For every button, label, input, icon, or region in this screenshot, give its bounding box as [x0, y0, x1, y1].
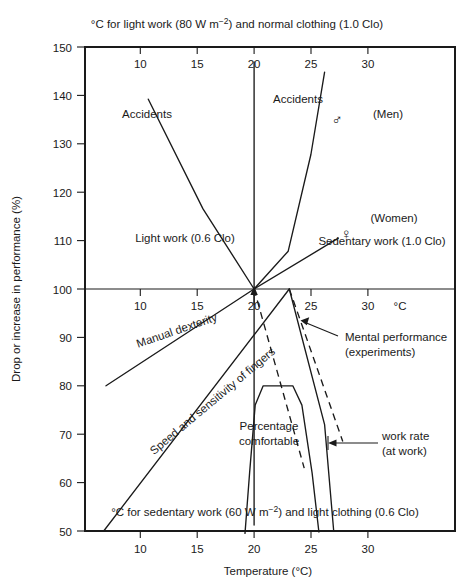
annotation-accidents-right: Accidents — [273, 93, 323, 105]
y-tick-label: 150 — [53, 42, 72, 54]
y-axis-ticks — [77, 47, 85, 531]
top-axis-ticks — [140, 47, 368, 54]
bottom-banner-label: °C for sedentary work (60 W m−2) and lig… — [111, 504, 419, 518]
y-tick-label: 80 — [59, 380, 72, 392]
bottom-tick-label: 25 — [305, 543, 318, 555]
y-tick-label: 130 — [53, 138, 72, 150]
mid-tick-label: 30 — [362, 300, 375, 312]
series-manual-dexterity — [106, 289, 254, 386]
annotation-light-work: Light work (0.6 Clo) — [135, 232, 235, 244]
performance-temperature-chart: °C for light work (80 W m−2) and normal … — [0, 0, 474, 585]
mid-tick-label: 25 — [305, 300, 318, 312]
annotation-accidents-left: Accidents — [122, 108, 172, 120]
top-banner-prefix: °C for light work (80 W m — [91, 18, 219, 30]
bottom-axis-tick-labels: 10 15 20 25 30 — [134, 543, 374, 555]
bottom-banner-superscript: −2 — [269, 504, 279, 514]
top-banner-label: °C for light work (80 W m−2) and normal … — [91, 16, 383, 30]
x-axis-title: Temperature (°C) — [224, 565, 312, 577]
top-tick-label: 25 — [305, 58, 318, 70]
y-tick-label: 50 — [59, 526, 72, 538]
annotation-men: (Men) — [373, 108, 403, 120]
y-tick-label: 110 — [54, 235, 72, 247]
annotation-mental-performance-line1: Mental performance — [345, 331, 447, 343]
y-tick-label: 140 — [53, 90, 72, 102]
bottom-axis-ticks — [140, 531, 368, 538]
annotation-manual-dexterity: Manual dexterity — [135, 311, 219, 350]
y-tick-label: 60 — [59, 477, 72, 489]
top-tick-label: 15 — [191, 58, 204, 70]
bottom-tick-label: 15 — [191, 543, 204, 555]
male-symbol-icon: ♂ — [331, 111, 342, 128]
bottom-banner-prefix: °C for sedentary work (60 W m — [111, 506, 268, 518]
mid-axis-unit-label: °C — [394, 300, 407, 312]
y-tick-label: 90 — [59, 332, 72, 344]
y-tick-label: 70 — [59, 429, 72, 441]
mid-tick-label: 10 — [134, 300, 147, 312]
top-tick-label: 10 — [134, 58, 147, 70]
annotation-work-rate-line2: (at work) — [382, 445, 427, 457]
annotation-women: (Women) — [370, 212, 417, 224]
y-tick-label: 100 — [53, 284, 72, 296]
figure-root: °C for light work (80 W m−2) and normal … — [0, 0, 474, 585]
annotation-work-rate-line1: work rate — [381, 430, 429, 442]
top-tick-label: 30 — [362, 58, 375, 70]
bottom-tick-label: 10 — [134, 543, 147, 555]
y-axis-tick-labels: 150 140 130 120 110 100 90 80 70 60 50 — [53, 42, 72, 538]
work-rate-leader — [328, 436, 378, 450]
annotation-percentage-comfortable-line2: comfortable — [239, 435, 299, 447]
mid-axis-tick-labels: 10 15 20 25 30 °C — [134, 300, 407, 312]
mid-tick-label: 15 — [191, 300, 204, 312]
annotation-percentage-comfortable-line1: Percentage — [240, 420, 299, 432]
annotation-mental-performance-line2: (experiments) — [345, 346, 415, 358]
top-banner-suffix: ) and normal clothing (1.0 Clo) — [228, 18, 383, 30]
y-axis-title: Drop or increase in performance (%) — [10, 196, 22, 382]
bottom-tick-label: 20 — [248, 543, 261, 555]
top-banner-superscript: −2 — [219, 16, 229, 26]
y-tick-label: 120 — [53, 187, 72, 199]
mental-performance-leader — [301, 317, 339, 336]
bottom-banner-suffix: ) and light clothing (0.6 Clo) — [278, 506, 419, 518]
annotation-sedentary-work: Sedentary work (1.0 Clo) — [318, 235, 445, 247]
series-accidents-light-work — [148, 99, 254, 289]
bottom-tick-label: 30 — [362, 543, 375, 555]
